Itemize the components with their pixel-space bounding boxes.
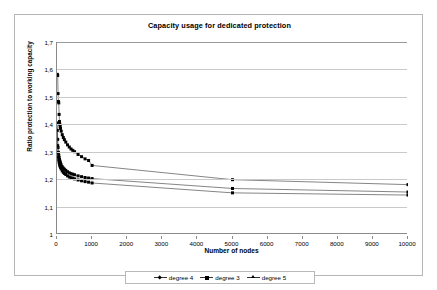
gridline bbox=[57, 179, 407, 180]
data-point-marker bbox=[57, 92, 60, 95]
data-point-marker bbox=[64, 141, 67, 144]
y-tick-label: 1,6 bbox=[44, 66, 53, 73]
plot-area bbox=[56, 42, 407, 234]
x-tick-label: 4000 bbox=[190, 240, 204, 247]
gridline bbox=[57, 69, 407, 70]
x-tick-mark bbox=[161, 236, 162, 239]
x-tick-mark bbox=[267, 236, 268, 239]
x-tick-label: 8000 bbox=[330, 240, 344, 247]
x-tick-label: 9000 bbox=[365, 240, 379, 247]
x-tick-mark bbox=[56, 236, 57, 239]
x-tick-label: 6000 bbox=[260, 240, 274, 247]
y-tick-label: 1,3 bbox=[44, 148, 53, 155]
data-point-marker bbox=[77, 153, 80, 156]
legend-item-degree-4[interactable]: degree 4 bbox=[154, 274, 193, 281]
data-point-marker bbox=[231, 187, 234, 190]
y-tick-label: 1,7 bbox=[44, 39, 53, 46]
y-axis-tick-labels: 11,11,21,31,41,51,61,7 bbox=[33, 42, 53, 234]
data-point-marker bbox=[57, 74, 59, 77]
data-point-marker bbox=[57, 156, 60, 159]
y-axis-title: Ratio protection to working capacity bbox=[26, 22, 33, 172]
gridline bbox=[57, 152, 407, 153]
series-degree-5 bbox=[57, 129, 408, 197]
x-tick-mark bbox=[91, 236, 92, 239]
x-tick-mark bbox=[232, 236, 233, 239]
x-tick-mark bbox=[126, 236, 127, 239]
data-point-marker bbox=[407, 183, 409, 186]
x-tick-mark bbox=[196, 236, 197, 239]
square-marker-icon bbox=[200, 277, 213, 278]
series-line bbox=[57, 130, 408, 195]
legend-item-degree-5[interactable]: degree 5 bbox=[247, 274, 286, 281]
chart-frame: Capacity usage for dedicated protection … bbox=[14, 14, 423, 276]
data-point-marker bbox=[87, 159, 90, 162]
y-tick-label: 1,1 bbox=[44, 203, 53, 210]
x-tick-mark bbox=[302, 236, 303, 239]
x-tick-label: 3000 bbox=[154, 240, 168, 247]
data-point-marker bbox=[84, 180, 87, 183]
x-tick-label: 1000 bbox=[84, 240, 98, 247]
data-point-marker bbox=[59, 127, 62, 130]
y-tick-label: 1 bbox=[50, 231, 53, 238]
y-tick-label: 1,2 bbox=[44, 176, 53, 183]
triangle-marker-icon bbox=[247, 277, 260, 278]
y-tick-label: 1,5 bbox=[44, 93, 53, 100]
series-line bbox=[57, 123, 408, 192]
series-degree-4 bbox=[57, 121, 408, 193]
screenshot-root: Capacity usage for dedicated protection … bbox=[0, 0, 437, 290]
diamond-marker-icon bbox=[154, 277, 167, 278]
chart-legend: degree 4degree 3degree 5 bbox=[125, 271, 315, 284]
data-series-layer bbox=[57, 42, 408, 234]
series-line bbox=[57, 74, 408, 184]
x-tick-mark bbox=[407, 236, 408, 239]
data-point-marker bbox=[57, 129, 59, 132]
data-point-marker bbox=[87, 181, 90, 184]
gridline bbox=[57, 42, 407, 43]
x-tick-label: 0 bbox=[54, 240, 57, 247]
gridline bbox=[57, 207, 407, 208]
y-tick-label: 1,4 bbox=[44, 121, 53, 128]
data-point-marker bbox=[73, 173, 76, 176]
data-point-marker bbox=[58, 113, 61, 116]
data-point-marker bbox=[407, 194, 409, 197]
legend-item-degree-3[interactable]: degree 3 bbox=[200, 274, 239, 281]
legend-label: degree 3 bbox=[215, 274, 239, 281]
data-point-marker bbox=[407, 191, 409, 194]
x-tick-label: 2000 bbox=[119, 240, 133, 247]
x-tick-label: 5000 bbox=[225, 240, 239, 247]
data-point-marker bbox=[91, 164, 94, 167]
data-point-marker bbox=[57, 101, 60, 104]
data-point-marker bbox=[60, 130, 63, 133]
x-tick-label: 7000 bbox=[295, 240, 309, 247]
gridline bbox=[57, 97, 407, 98]
data-point-marker bbox=[57, 144, 59, 147]
x-tick-label: 10000 bbox=[398, 240, 415, 247]
x-tick-mark bbox=[337, 236, 338, 239]
data-point-marker bbox=[84, 157, 87, 160]
data-point-marker bbox=[61, 133, 64, 136]
x-axis-title: Number of nodes bbox=[56, 247, 407, 254]
data-point-marker bbox=[91, 181, 94, 184]
legend-label: degree 4 bbox=[169, 274, 193, 281]
data-point-marker bbox=[80, 175, 83, 178]
data-point-marker bbox=[77, 174, 80, 177]
data-point-marker bbox=[58, 120, 61, 123]
chart-title: Capacity usage for dedicated protection bbox=[15, 21, 424, 30]
data-point-marker bbox=[231, 191, 234, 194]
series-degree-3 bbox=[57, 73, 408, 186]
legend-label: degree 5 bbox=[262, 274, 286, 281]
x-tick-mark bbox=[372, 236, 373, 239]
gridline bbox=[57, 124, 407, 125]
data-point-marker bbox=[80, 155, 83, 158]
